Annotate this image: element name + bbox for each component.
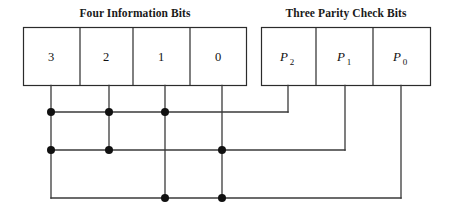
junction-dot-p0-bit1 <box>161 194 169 202</box>
parity-row-p2 <box>47 108 288 116</box>
information-cell-label-2: 2 <box>103 50 109 64</box>
diagram-canvas: Four Information Bits Three Parity Check… <box>0 0 452 218</box>
information-bits-outer-box <box>24 28 247 86</box>
information-cell-label-3: 3 <box>48 50 54 64</box>
junction-dot-p2-bit3 <box>47 108 55 116</box>
junction-dot-p2-bit1 <box>161 108 169 116</box>
parity-cell-base-p2: P <box>279 49 288 64</box>
junction-dot-p1-bit2 <box>105 146 113 154</box>
junction-dot-p1-bit3 <box>47 146 55 154</box>
information-cell-label-0: 0 <box>215 50 221 64</box>
parity-cell-subscript-p1: 1 <box>347 57 352 67</box>
information-group-title: Four Information Bits <box>79 7 191 19</box>
parity-row-p1 <box>47 146 345 154</box>
parity-cell-base-p1: P <box>336 49 345 64</box>
parity-bits-box-group: P 2 P 1 P 0 <box>262 28 431 86</box>
information-bits-box-group: 3 2 1 0 <box>24 28 247 86</box>
parity-cell-subscript-p2: 2 <box>290 57 295 67</box>
parity-cell-subscript-p0: 0 <box>403 57 408 67</box>
junction-dot-p0-bit0 <box>218 194 226 202</box>
junction-dot-p2-bit2 <box>105 108 113 116</box>
parity-row-p0 <box>51 194 401 202</box>
parity-group-title: Three Parity Check Bits <box>285 7 407 20</box>
information-cell-label-1: 1 <box>158 50 164 64</box>
parity-check-diagram: Four Information Bits Three Parity Check… <box>0 0 452 218</box>
parity-cell-base-p0: P <box>392 49 401 64</box>
junction-dot-p1-bit0 <box>218 146 226 154</box>
